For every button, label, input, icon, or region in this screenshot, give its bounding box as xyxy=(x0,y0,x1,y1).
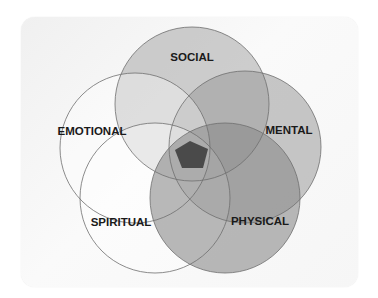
venn-diagram: SOCIAL MENTAL EMOTIONAL SPIRITUAL PHYSIC… xyxy=(0,0,378,298)
label-emotional: EMOTIONAL xyxy=(58,125,127,137)
label-social: SOCIAL xyxy=(170,51,213,63)
label-mental: MENTAL xyxy=(265,124,312,136)
label-physical: PHYSICAL xyxy=(231,215,289,227)
circle-physical xyxy=(150,123,300,273)
label-spiritual: SPIRITUAL xyxy=(91,216,152,228)
